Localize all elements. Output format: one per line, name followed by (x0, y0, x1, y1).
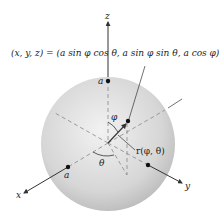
surface-point (126, 119, 130, 123)
sphere-parametrization-diagram: z x y (x, y, z) = (a sin φ cos θ, a sin … (0, 0, 219, 219)
z-axis-label: z (104, 11, 110, 21)
a-x-label: a (64, 170, 69, 180)
x-axis-label: x (16, 190, 21, 200)
theta-label: θ (99, 158, 105, 168)
phi-label: φ (111, 112, 118, 122)
side-pointer (168, 99, 182, 108)
point-y (146, 163, 150, 167)
point-a-x (66, 165, 70, 169)
a-top-label: a (98, 76, 103, 86)
point-a-top (106, 79, 110, 83)
r-vector-label: r(φ, θ) (136, 146, 165, 156)
equation-label: (x, y, z) = (a sin φ cos θ, a sin φ sin … (11, 48, 219, 58)
y-axis-label: y (184, 181, 191, 191)
